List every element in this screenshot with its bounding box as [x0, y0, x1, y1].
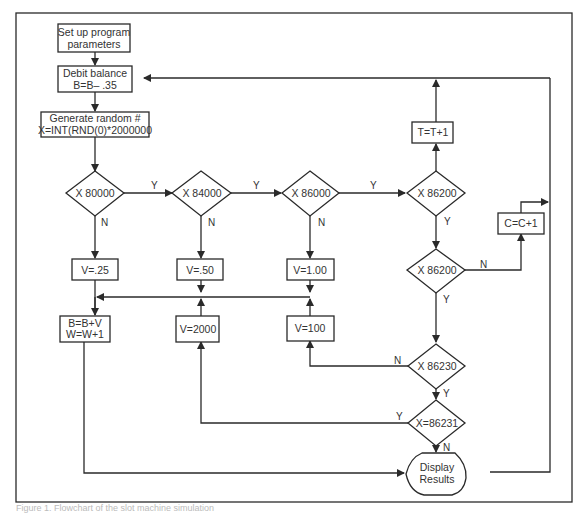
label-d4-y: Y — [444, 216, 451, 227]
v25-text: V=.25 — [81, 264, 109, 276]
edge-d7-v2000 — [201, 342, 408, 423]
label-d7-n: N — [443, 442, 450, 453]
v2000-text: V=2000 — [180, 323, 217, 335]
display-text-2: Results — [419, 473, 454, 485]
d6-text: X 86230 — [417, 360, 456, 372]
edge-bw-display — [84, 342, 404, 473]
label-d5-n: N — [480, 259, 487, 270]
edge-d5-cc — [465, 234, 521, 270]
label-d3-y: Y — [370, 180, 377, 191]
flowchart-canvas: Set up program parameters Debit balance … — [0, 0, 585, 513]
v50-text: V=.50 — [186, 264, 214, 276]
d1-text: X 80000 — [75, 187, 114, 199]
bw-text-2: W=W+1 — [66, 328, 104, 340]
cc-text: C=C+1 — [504, 217, 537, 229]
d4-text: X 86200 — [417, 187, 456, 199]
label-d2-y: Y — [253, 180, 260, 191]
label-d7-y: Y — [396, 411, 403, 422]
d7-text: X=86231 — [416, 417, 458, 429]
label-d1-y: Y — [151, 180, 158, 191]
edge-cc-loop — [521, 202, 548, 213]
loop-right-vertical — [490, 78, 550, 472]
label-d5-y: Y — [443, 294, 450, 305]
random-text-1: Generate random # — [49, 112, 140, 124]
setup-text-1: Set up program — [58, 26, 131, 38]
d2-text: X 84000 — [182, 187, 221, 199]
v100-text: V=100 — [295, 322, 326, 334]
label-d1-n: N — [101, 217, 108, 228]
display-text-1: Display — [420, 461, 455, 473]
setup-text-2: parameters — [67, 38, 120, 50]
label-d6-y: Y — [443, 388, 450, 399]
tt-text: T=T+1 — [418, 126, 449, 138]
debit-text-2: B=B– .35 — [73, 79, 117, 91]
debit-text-1: Debit balance — [63, 67, 127, 79]
v100a-text: V=1.00 — [293, 264, 327, 276]
random-text-2: X=INT(RND(0)*2000000 — [38, 124, 152, 136]
label-d3-n: N — [318, 217, 325, 228]
figure-caption: Figure 1. Flowchart of the slot machine … — [16, 503, 214, 513]
label-d2-n: N — [208, 217, 215, 228]
d5-text: X 86200 — [417, 264, 456, 276]
label-d6-n: N — [394, 355, 401, 366]
d3-text: X 86000 — [291, 187, 330, 199]
